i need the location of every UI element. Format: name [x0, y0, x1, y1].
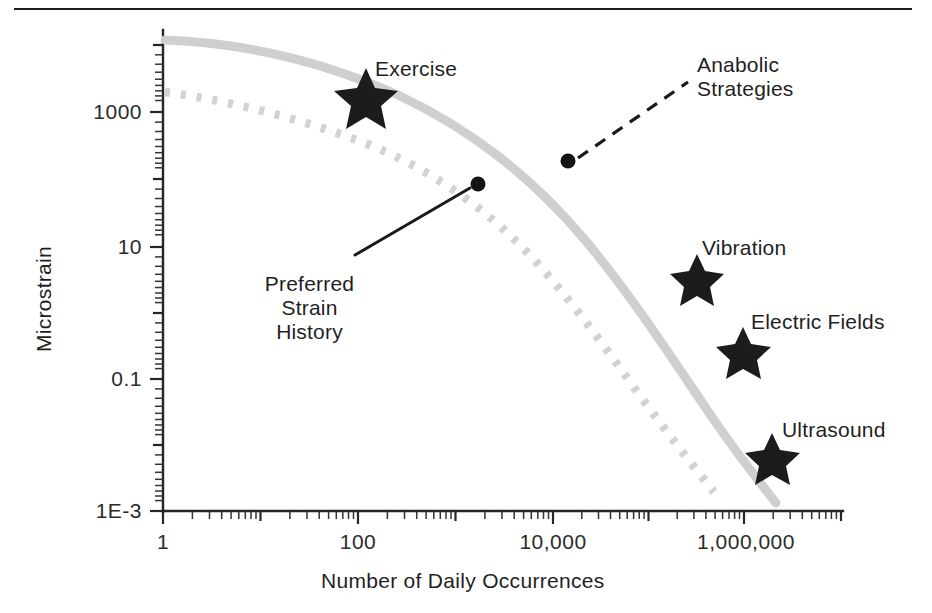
x-tick-label-1: 1 — [157, 530, 169, 554]
marker-dot-anabolic-strategies[interactable] — [561, 154, 576, 169]
annotation-exercise: Exercise — [375, 57, 457, 81]
annotation-electric-fields: Electric Fields — [751, 310, 885, 334]
marker-dot-preferred-strain-history[interactable] — [471, 177, 486, 192]
y-tick-label-1000: 1000 — [52, 100, 142, 124]
marker-star-electric-fields[interactable] — [716, 327, 771, 379]
annotation-vibration: Vibration — [702, 236, 786, 260]
x-axis-ticks — [163, 511, 841, 524]
axes-group — [163, 30, 843, 512]
x-axis-title: Number of Daily Occurrences — [321, 569, 605, 593]
preferred-leader-line — [355, 188, 470, 255]
y-tick-label-1e-3: 1E-3 — [42, 499, 142, 523]
figure-container: 1000 10 0.1 1E-3 1 100 10,000 1,000,000 … — [0, 0, 932, 613]
x-tick-label-10000: 10,000 — [519, 530, 586, 554]
y-tick-label-10: 10 — [52, 235, 142, 259]
annotation-ultrasound: Ultrasound — [782, 418, 886, 442]
series-lower-dotted-curve — [165, 92, 714, 492]
annotation-anabolic-strategies: Anabolic Strategies — [697, 53, 794, 101]
marker-star-vibration[interactable] — [670, 254, 724, 306]
y-axis-ticks — [150, 45, 163, 511]
y-tick-label-0-1: 0.1 — [52, 367, 142, 391]
anabolic-leader-line — [578, 82, 688, 158]
x-tick-label-1000000: 1,000,000 — [697, 530, 795, 554]
annotation-preferred-strain-history: Preferred Strain History — [252, 272, 367, 344]
y-axis-title: Microstrain — [32, 246, 56, 352]
x-tick-label-100: 100 — [340, 530, 377, 554]
